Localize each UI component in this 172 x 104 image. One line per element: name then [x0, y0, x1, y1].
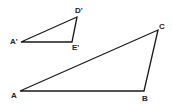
vertex-label-e-prime: E' [72, 43, 79, 52]
vertex-label-a: A [11, 91, 17, 100]
vertex-label-c: C [159, 22, 165, 31]
small-triangle-a-d-e [21, 17, 77, 42]
vertex-label-b: B [142, 94, 148, 103]
vertex-label-a-prime: A' [10, 37, 18, 46]
vertex-label-d-prime: D' [75, 6, 83, 15]
similar-triangles-diagram: A' D' E' A B C [0, 0, 172, 104]
large-triangle-a-b-c [20, 30, 158, 91]
